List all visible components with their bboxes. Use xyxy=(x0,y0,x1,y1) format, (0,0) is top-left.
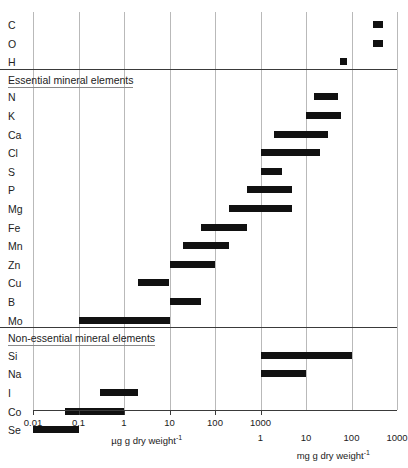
range-bar xyxy=(100,389,137,396)
tick-label-secondary: 1000 xyxy=(386,433,407,443)
section-divider xyxy=(0,327,397,328)
plot-area xyxy=(33,12,397,410)
element-label: N xyxy=(8,92,16,103)
tick-label-primary: 1000 xyxy=(250,418,271,428)
element-label: Si xyxy=(8,351,17,362)
element-label: Mo xyxy=(8,316,23,327)
element-label: Na xyxy=(8,369,21,380)
section-divider xyxy=(0,69,397,70)
tick-label-secondary: 1 xyxy=(258,433,263,443)
range-bar xyxy=(274,131,328,138)
element-label: Se xyxy=(8,425,21,436)
element-label: O xyxy=(8,39,16,50)
section-title: Essential mineral elements xyxy=(8,75,133,88)
gridline xyxy=(352,12,353,410)
element-label: P xyxy=(8,185,15,196)
tick-label-primary: 0.01 xyxy=(24,418,43,428)
element-label: Mn xyxy=(8,241,23,252)
range-bar xyxy=(183,242,229,249)
tick-mark xyxy=(124,410,125,415)
range-bar xyxy=(170,298,202,305)
element-label: Ca xyxy=(8,130,21,141)
element-label: C xyxy=(8,20,16,31)
gridline xyxy=(215,12,216,410)
range-bar xyxy=(261,149,320,156)
tick-mark xyxy=(170,410,171,415)
tick-mark xyxy=(79,410,80,415)
element-label: Cu xyxy=(8,278,21,289)
gridline xyxy=(306,12,307,410)
range-bar xyxy=(138,279,170,286)
axis-caption-primary: µg g dry weight-1 xyxy=(111,433,182,446)
element-label: Co xyxy=(8,407,21,418)
range-bar xyxy=(201,224,247,231)
range-bar xyxy=(79,317,170,324)
range-bar xyxy=(65,408,124,415)
gridline xyxy=(79,12,80,410)
axis-caption-secondary: mg g dry weight-1 xyxy=(297,448,370,461)
element-label: B xyxy=(8,297,15,308)
tick-label-primary: 1 xyxy=(121,418,126,428)
range-bar xyxy=(229,205,293,212)
element-label: S xyxy=(8,167,15,178)
range-bar xyxy=(306,112,341,119)
tick-label-primary: 100 xyxy=(207,418,223,428)
element-label: Cl xyxy=(8,148,18,159)
range-bar xyxy=(170,261,216,268)
element-label: Fe xyxy=(8,223,20,234)
tick-mark xyxy=(261,410,262,415)
range-bar xyxy=(261,168,283,175)
element-label: Zn xyxy=(8,260,20,271)
element-label: K xyxy=(8,111,15,122)
tick-label-secondary: 100 xyxy=(344,433,360,443)
tick-label-secondary: 10 xyxy=(301,433,312,443)
gridline xyxy=(124,12,125,410)
section-title: Non-essential mineral elements xyxy=(8,333,155,346)
tick-mark xyxy=(33,410,34,415)
tick-label-primary: 10 xyxy=(164,418,175,428)
range-bar xyxy=(261,352,352,359)
range-bar xyxy=(340,58,347,65)
gridline xyxy=(33,12,34,410)
element-label: I xyxy=(8,388,11,399)
range-bar xyxy=(373,21,383,28)
element-label: Mg xyxy=(8,204,23,215)
range-bar xyxy=(261,370,307,377)
tick-mark xyxy=(215,410,216,415)
element-label: H xyxy=(8,57,16,68)
range-bar xyxy=(247,186,293,193)
range-bar xyxy=(314,93,338,100)
gridline xyxy=(397,12,398,410)
range-bar xyxy=(373,40,383,47)
tick-label-primary: 0.1 xyxy=(72,418,85,428)
gridline xyxy=(170,12,171,410)
